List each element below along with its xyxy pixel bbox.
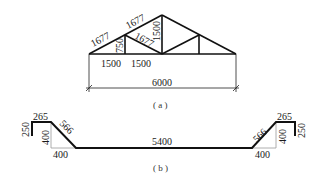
- label-vertical-short: 750: [114, 38, 125, 53]
- label-top-chord-left-upper: 1677: [124, 12, 147, 31]
- label-right-slope-horizontal: 400: [255, 149, 270, 160]
- caption-a: ( a ): [153, 100, 168, 110]
- label-right-slope: 566: [251, 126, 269, 144]
- label-left-lip: 250: [20, 122, 31, 137]
- label-left-flange: 265: [33, 111, 48, 122]
- label-left-slope-horizontal: 400: [53, 149, 68, 160]
- label-top-chord-left-lower: 1677: [89, 30, 112, 49]
- label-left-slope: 566: [58, 118, 76, 136]
- label-panel-1: 1500: [101, 58, 121, 69]
- label-right-depth: 400: [277, 129, 288, 144]
- label-bottom-length: 5400: [152, 136, 172, 147]
- truss-figure: 1677 1677 1677 750 1500 1500 1500 6000 (…: [86, 12, 239, 110]
- label-right-lip: 250: [296, 123, 307, 138]
- profile-figure: 250 265 566 400 400 5400 566 400 265 250…: [20, 111, 307, 173]
- diagonal-right: [162, 35, 199, 54]
- label-overall-span: 6000: [152, 77, 172, 88]
- diagram-canvas: 1677 1677 1677 750 1500 1500 1500 6000 (…: [0, 0, 318, 184]
- label-panel-2: 1500: [131, 58, 151, 69]
- label-left-depth: 400: [40, 130, 51, 145]
- caption-b: ( b ): [153, 163, 168, 173]
- label-vertical-center: 1500: [151, 21, 162, 41]
- label-right-flange: 265: [277, 111, 292, 122]
